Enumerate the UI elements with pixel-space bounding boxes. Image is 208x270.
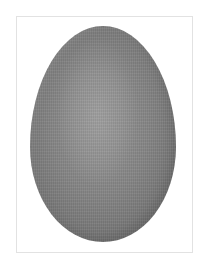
image-canvas	[0, 0, 208, 270]
